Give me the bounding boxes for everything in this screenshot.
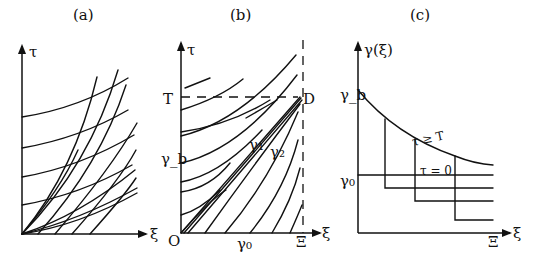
panel-c-x-label: ξ [513, 224, 521, 242]
panel-c-lower-curve-label: τ = 0 [420, 164, 452, 178]
panel-b-y-label: τ [187, 41, 195, 59]
panel-b: (b) τ ξ O γ₀ Ξ T γ_b D γ₁ γ₂ [161, 6, 330, 253]
panel-b-D-label: D [303, 90, 315, 108]
panel-b-x-label: ξ [322, 224, 330, 242]
panel-b-title: (b) [230, 6, 251, 24]
panel-b-xi-max-label: Ξ [296, 233, 307, 251]
panel-c-decreasing-profile [358, 90, 493, 165]
panel-a-steep-curves [22, 70, 137, 234]
panel-c-title: (c) [410, 6, 430, 24]
panel-b-gamma-b-label: γ_b [161, 150, 187, 168]
panel-b-upper-curves [181, 55, 297, 215]
panel-c-y-label: γ(ξ) [364, 41, 393, 59]
panel-a-x-label: ξ [150, 225, 158, 243]
panel-c-gamma0-label: γ₀ [340, 172, 355, 190]
panel-b-gamma1-label: γ₁ [249, 136, 264, 154]
panel-c: (c) γ(ξ) ξ Ξ γ_b γ₀ τ ≥ T τ = 0 [340, 6, 521, 251]
panel-b-T-label: T [163, 90, 173, 108]
panel-c-xi-max-label: Ξ [488, 233, 499, 251]
panel-a-title: (a) [73, 6, 94, 24]
panel-a-y-label: τ [29, 43, 37, 61]
characteristics-diagram: (a) τ ξ (b) τ ξ O γ₀ [0, 0, 541, 261]
panel-b-gamma0-label: γ₀ [237, 235, 252, 253]
panel-a: (a) τ ξ [22, 6, 158, 243]
panel-b-origin-label: O [168, 232, 180, 250]
